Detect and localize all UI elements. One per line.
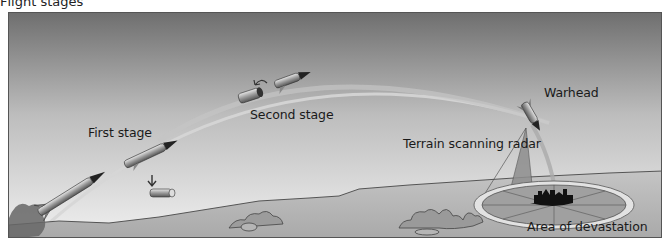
label-terrain-scanning-radar: Terrain scanning radar — [403, 136, 541, 151]
label-warhead: Warhead — [544, 85, 599, 100]
label-second-stage: Second stage — [250, 107, 333, 122]
figure-title: Flight stages — [0, 0, 83, 9]
label-first-stage: First stage — [88, 125, 152, 140]
diagram-frame: First stage Second stage Warhead Terrain… — [8, 12, 662, 238]
label-area-of-devastation: Area of devastation — [527, 219, 648, 234]
